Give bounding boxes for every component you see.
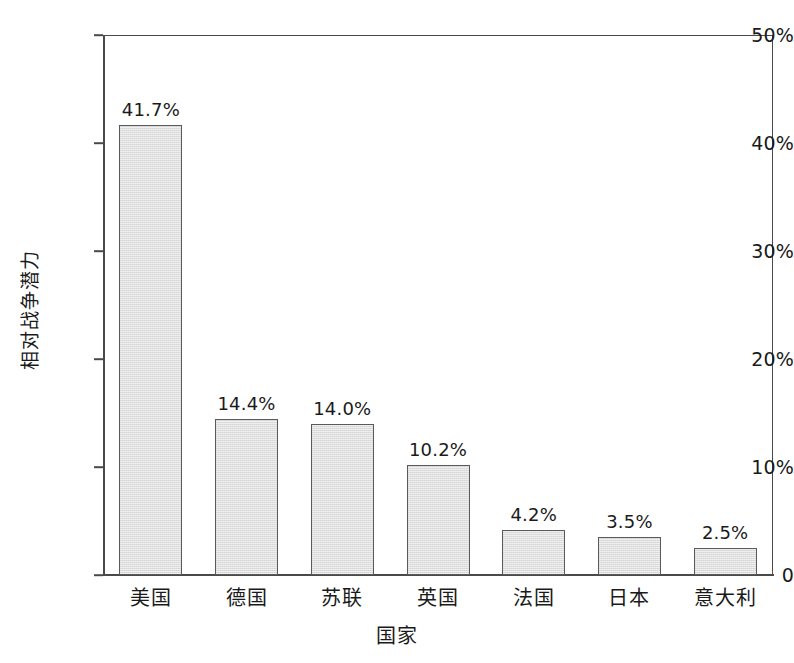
bar: 14.0% [311, 424, 374, 575]
y-axis-tick-mark [94, 574, 103, 576]
y-axis-tick-mark [94, 34, 103, 36]
bar-chart: 相对战争潜力 国家 010%20%30%40%50% 41.7%14.4%14.… [0, 0, 794, 663]
y-axis-tick-mark [94, 250, 103, 252]
bar: 2.5% [694, 548, 757, 575]
bar: 10.2% [407, 465, 470, 575]
x-axis-category-label: 法国 [513, 582, 555, 611]
bar: 3.5% [598, 537, 661, 575]
bar-value-label: 4.2% [510, 504, 557, 525]
x-axis-category-label: 美国 [130, 582, 172, 611]
bar-rect [407, 465, 470, 575]
y-axis-tick-label: 20% [708, 348, 794, 370]
x-axis-category-label: 英国 [417, 582, 459, 611]
bar: 4.2% [502, 530, 565, 575]
bar-rect [598, 537, 661, 575]
bar-value-label: 14.0% [313, 398, 371, 419]
y-axis-tick-mark [94, 466, 103, 468]
y-axis-tick-label: 40% [708, 132, 794, 154]
y-axis-tick-label: 30% [708, 240, 794, 262]
bar-rect [694, 548, 757, 575]
bar: 14.4% [215, 419, 278, 575]
bar-value-label: 3.5% [606, 511, 653, 532]
x-axis-category-label: 日本 [608, 582, 650, 611]
bar-rect [311, 424, 374, 575]
x-axis-title: 国家 [376, 620, 418, 649]
bar-value-label: 2.5% [702, 522, 749, 543]
bar-value-label: 10.2% [409, 439, 467, 460]
y-axis-tick-label: 10% [708, 456, 794, 478]
y-axis-tick-label: 50% [708, 24, 794, 46]
bar-value-label: 41.7% [122, 99, 180, 120]
bar-rect [502, 530, 565, 575]
y-axis-title: 相对战争潜力 [15, 250, 42, 370]
x-axis-category-label: 意大利 [694, 582, 757, 611]
bar-rect [119, 125, 182, 575]
x-axis-category-label: 苏联 [321, 582, 363, 611]
x-axis-category-label: 德国 [226, 582, 268, 611]
y-axis-tick-mark [94, 358, 103, 360]
bar-value-label: 14.4% [217, 393, 275, 414]
bar-rect [215, 419, 278, 575]
y-axis-line [103, 35, 105, 576]
bar: 41.7% [119, 125, 182, 575]
y-axis-tick-mark [94, 142, 103, 144]
